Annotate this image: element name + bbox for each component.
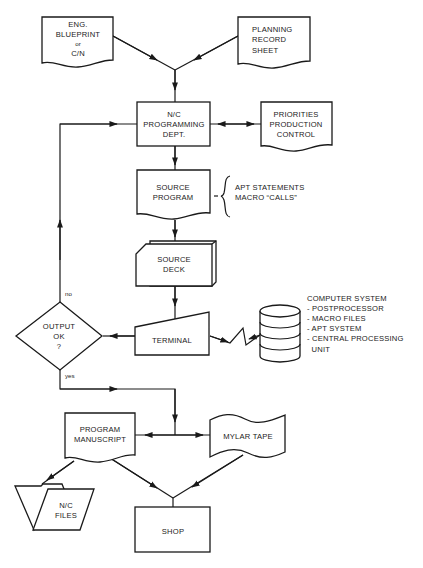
edge-decision-no-to-nc [60, 124, 137, 302]
label: PROGRAM [80, 425, 121, 434]
label: SHEET [252, 46, 278, 55]
label: SOURCE [157, 255, 191, 264]
node-terminal: TERMINAL [135, 312, 209, 355]
node-computer-system [260, 305, 300, 362]
node-priorities-production-control: PRIORITIES PRODUCTION CONTROL [261, 102, 332, 151]
edge-label-yes: yes [65, 372, 75, 379]
node-output-ok-decision: OUTPUT OK ? [16, 302, 102, 370]
node-planning-record-sheet: PLANNING RECORD SHEET [238, 17, 310, 68]
brace-icon [221, 176, 230, 217]
label: - CENTRAL PROCESSING [307, 334, 404, 343]
label: RECORD [252, 35, 286, 44]
node-program-manuscript: PROGRAM MANUSCRIPT [65, 413, 135, 462]
label: MYLAR TAPE [223, 432, 272, 441]
node-nc-files: N/C FILES [15, 484, 94, 530]
edge-terminal-computer-comm-link [210, 328, 260, 345]
node-mylar-tape: MYLAR TAPE [210, 415, 285, 458]
edge-label-no: no [65, 290, 72, 297]
label: N/C [167, 110, 181, 119]
node-source-deck: SOURCE DECK [136, 241, 216, 286]
note-source-program: APT STATEMENTS MACRO “CALLS” [214, 176, 304, 217]
label: - MACRO FILES [307, 314, 366, 323]
label: PRIORITIES [273, 110, 318, 119]
label: APT STATEMENTS [235, 183, 304, 192]
node-eng-blueprint: ENG. BLUEPRINT or C/N [42, 17, 113, 67]
label: MANUSCRIPT [74, 435, 126, 444]
node-source-program: SOURCE PROGRAM [137, 170, 210, 219]
label: - POSTPROCESSOR [307, 304, 384, 313]
label: CONTROL [277, 130, 316, 139]
label: FILES [55, 511, 77, 520]
label: PRODUCTION [269, 120, 322, 129]
label: DEPT. [163, 130, 186, 139]
label: ? [57, 342, 61, 351]
label: SHOP [162, 527, 184, 536]
label: COMPUTER SYSTEM [307, 294, 387, 303]
label: DECK [163, 265, 185, 274]
node-shop: SHOP [135, 507, 210, 552]
label: - APT SYSTEM [307, 324, 362, 333]
label: PROGRAM [153, 193, 194, 202]
label: SOURCE [156, 183, 190, 192]
label: UNIT [307, 345, 330, 354]
label: OK [53, 332, 64, 341]
nc-programming-flowchart: ENG. BLUEPRINT or C/N PLANNING RECORD SH… [0, 0, 423, 568]
label: MACRO “CALLS” [235, 193, 297, 202]
note-computer-system: COMPUTER SYSTEM - POSTPROCESSOR - MACRO … [307, 294, 404, 354]
label: OUTPUT [43, 322, 76, 331]
label: or [75, 40, 81, 47]
label: ENG. [68, 20, 87, 29]
label: C/N [71, 49, 85, 58]
label: BLUEPRINT [56, 30, 101, 39]
label: PLANNING [252, 25, 292, 34]
label: N/C [59, 501, 73, 510]
node-nc-programming-dept: N/C PROGRAMMING DEPT. [137, 102, 210, 146]
label: PROGRAMMING [143, 120, 204, 129]
label: TERMINAL [152, 336, 192, 345]
